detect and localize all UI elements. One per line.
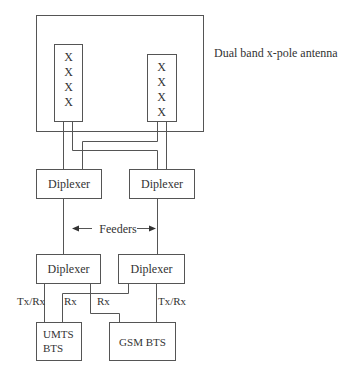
right-txrx-label: Tx/Rx xyxy=(158,295,187,307)
wire-right-element-to-left-diplexer xyxy=(83,121,158,169)
middle-rx-label: Rx xyxy=(97,295,110,307)
top-right-diplexer-label: Diplexer xyxy=(141,177,183,191)
antenna-enclosure xyxy=(37,16,204,132)
gsm-bts-label: GSM BTS xyxy=(119,336,166,348)
top-left-diplexer-label: Diplexer xyxy=(48,177,90,191)
bottom-right-diplexer-label: Diplexer xyxy=(131,262,173,276)
antenna-label: Dual band x-pole antenna xyxy=(214,46,338,60)
left-element-x-4: X xyxy=(64,95,73,109)
left-rx-label: Rx xyxy=(64,295,77,307)
umts-bts-label-line2: BTS xyxy=(43,342,63,354)
left-txrx-label: Tx/Rx xyxy=(17,295,46,307)
right-element-x-4: X xyxy=(157,105,166,119)
left-element-x-2: X xyxy=(64,65,73,79)
right-element-x-1: X xyxy=(157,60,166,74)
umts-bts-label-line1: UMTS xyxy=(43,328,74,340)
antenna-system-diagram: X X X X X X X X Dual band x-pole antenna… xyxy=(0,0,351,372)
left-element-x-1: X xyxy=(64,50,73,64)
wire-left-element-to-right-diplexer xyxy=(73,121,158,169)
feeders-right-arrow-icon xyxy=(137,226,156,232)
left-element-x-3: X xyxy=(64,80,73,94)
bottom-left-diplexer-label: Diplexer xyxy=(48,262,90,276)
feeders-label: Feeders xyxy=(99,222,137,236)
feeders-left-arrow-icon xyxy=(72,226,92,232)
right-element-x-3: X xyxy=(157,90,166,104)
right-element-x-2: X xyxy=(157,75,166,89)
